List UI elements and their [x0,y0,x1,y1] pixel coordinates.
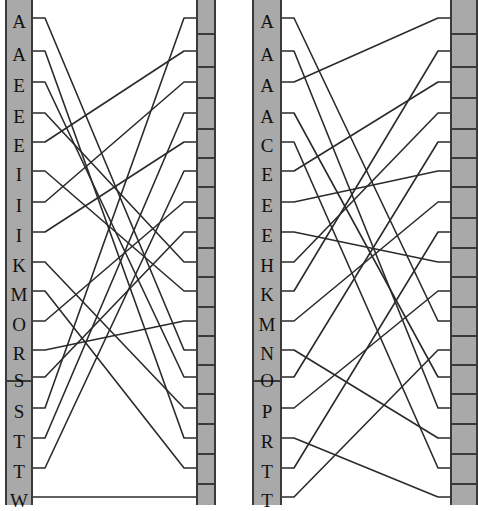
right-panel-left-axis-label-12: O [252,371,282,390]
right-panel-left-axis-label-4: C [252,136,282,155]
right-panel-right-axis-divider-10 [450,335,478,337]
right-panel-left-axis[interactable]: AAAACEEEHKMNOPRTT [252,0,282,505]
right-panel-right-axis-divider-12 [450,393,478,395]
right-panel-right-axis-divider-1 [450,66,478,68]
right-panel-link-3[interactable] [282,113,450,377]
right-panel-right-axis-divider-7 [450,247,478,249]
right-panel-link-4[interactable] [282,142,450,468]
right-panel-left-axis-label-15: T [252,462,282,481]
right-panel-left-axis-label-7: E [252,226,282,245]
right-panel-right-axis-divider-8 [450,276,478,278]
right-panel-link-15[interactable] [282,232,450,468]
right-panel-left-axis-label-2: A [252,76,282,95]
right-panel-right-axis-divider-11 [450,364,478,366]
right-panel-left-axis-label-3: A [252,107,282,126]
right-panel-right-axis-divider-4 [450,157,478,159]
right-panel-links [282,0,450,505]
right-panel-right-axis-divider-0 [450,33,478,35]
right-panel-right-axis-divider-15 [450,483,478,485]
right-panel-left-axis-label-16: T [252,491,282,510]
right-panel-left-axis-label-11: N [252,344,282,363]
right-panel-right-axis-divider-14 [450,453,478,455]
right-panel-left-axis-label-8: H [252,256,282,275]
right-panel-right-axis-divider-9 [450,306,478,308]
right-panel-right-axis[interactable] [450,0,478,505]
right-panel-right-axis-divider-5 [450,186,478,188]
right-panel-left-axis-label-13: P [252,402,282,421]
right-panel-left-axis-label-0: A [252,12,282,31]
right-panel-right-axis-divider-2 [450,97,478,99]
right-panel-right-axis-bar [450,0,478,505]
right-panel-right-axis-divider-13 [450,423,478,425]
right-panel-link-16[interactable] [282,350,450,497]
right-panel-left-axis-label-14: R [252,432,282,451]
right-panel-right-axis-divider-6 [450,217,478,219]
right-panel-left-axis-label-10: M [252,315,282,334]
right-panel-left-axis-label-1: A [252,45,282,64]
right-panel-left-axis-label-9: K [252,285,282,304]
right-panel-link-7[interactable] [282,232,450,262]
right-panel-left-axis-label-5: E [252,165,282,184]
right-panel-right-axis-divider-3 [450,128,478,130]
right-panel-left-axis-label-6: E [252,196,282,215]
right-panel-link-8[interactable] [282,113,450,262]
